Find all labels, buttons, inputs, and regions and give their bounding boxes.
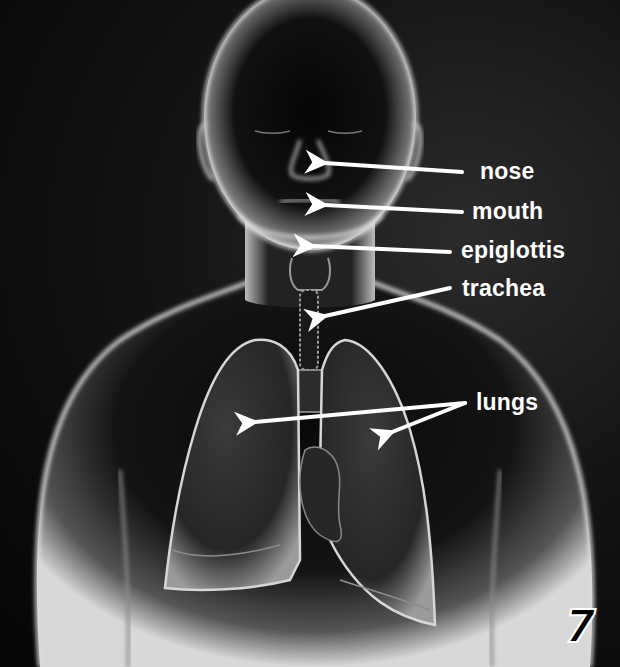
page-number: 7 <box>565 605 596 649</box>
head <box>200 0 421 250</box>
label-nose: nose <box>480 160 534 183</box>
label-lungs: lungs <box>476 391 538 414</box>
label-epiglottis: epiglottis <box>461 239 565 262</box>
human-torso-illustration <box>0 0 620 667</box>
label-trachea: trachea <box>462 277 545 300</box>
respiratory-diagram: nose mouth epiglottis trachea lungs 7 <box>0 0 620 667</box>
label-mouth: mouth <box>472 200 543 223</box>
